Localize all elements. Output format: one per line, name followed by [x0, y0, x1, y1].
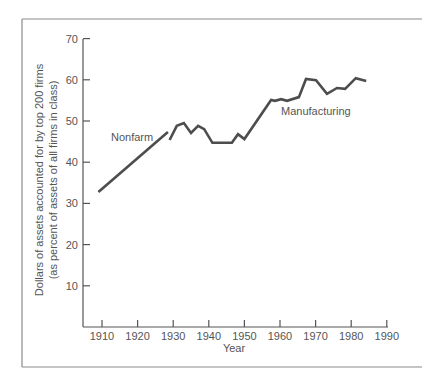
- x-tick-label: 1970: [303, 330, 327, 342]
- y-tick-label: 40: [66, 156, 78, 168]
- x-tick-label: 1990: [375, 330, 399, 342]
- x-tick-label: 1960: [268, 330, 292, 342]
- y-tick-label: 20: [66, 239, 78, 251]
- series-label-manufacturing: Manufacturing: [281, 105, 351, 117]
- y-axis-title-line1: Dollars of assets accounted for by top 2…: [33, 63, 45, 296]
- x-tick-label: 1920: [125, 330, 149, 342]
- y-axis-title-line2: (as percent of assets of all firms in cl…: [47, 81, 59, 280]
- y-axis-title: Dollars of assets accounted for by top 2…: [33, 63, 59, 296]
- x-tick-label: 1980: [339, 330, 363, 342]
- y-tick-label: 70: [66, 33, 78, 45]
- x-tick-label: 1950: [232, 330, 256, 342]
- line-chart: 10203040506070 1910192019301940195019601…: [0, 0, 422, 381]
- y-tick-label: 30: [66, 197, 78, 209]
- y-tick-label: 50: [66, 115, 78, 127]
- x-tick-label: 1930: [161, 330, 185, 342]
- series-label-nonfarm: Nonfarm: [111, 131, 153, 143]
- x-tick-label: 1940: [197, 330, 221, 342]
- y-axis: 10203040506070: [66, 33, 90, 327]
- y-tick-label: 10: [66, 280, 78, 292]
- x-axis: 191019201930194019501960197019801990: [83, 320, 399, 342]
- chart-frame: [22, 19, 422, 367]
- y-tick-label: 60: [66, 74, 78, 86]
- x-tick-label: 1910: [90, 330, 114, 342]
- x-axis-title: Year: [223, 342, 246, 354]
